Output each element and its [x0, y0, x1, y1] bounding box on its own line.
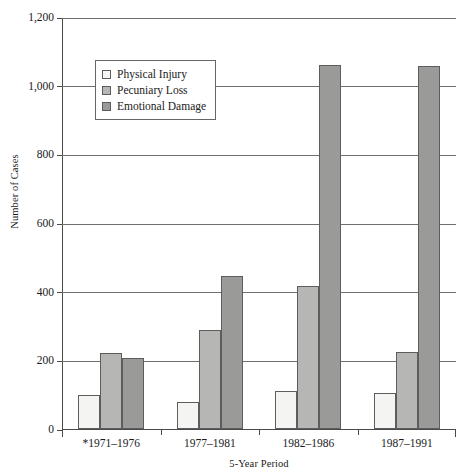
x-axis-tick-mark — [161, 429, 162, 435]
y-axis-tick-label: 0 — [8, 424, 54, 436]
bar-physical-injury-1 — [177, 402, 199, 429]
legend-item: Pecuniary Loss — [102, 82, 206, 98]
legend-swatch-icon — [102, 70, 111, 79]
x-axis-tick-labels: *1971–19761977–19811982–19861987–1991 — [62, 436, 456, 454]
y-axis-tick-mark — [57, 86, 62, 87]
y-axis-tick-mark — [57, 155, 62, 156]
y-axis-tick-label: 600 — [8, 218, 54, 230]
legend-item: Physical Injury — [102, 66, 206, 82]
x-axis-tick-mark — [259, 429, 260, 435]
legend-swatch-icon — [102, 86, 111, 95]
y-axis-tick-label: 800 — [8, 149, 54, 161]
y-axis-tick-mark — [57, 292, 62, 293]
y-axis-tick-label: 200 — [8, 355, 54, 367]
y-axis-tick-label: 400 — [8, 287, 54, 299]
y-axis-tick-mark — [57, 224, 62, 225]
gridline — [62, 18, 456, 19]
x-axis-tick-label: 1982–1986 — [259, 436, 358, 450]
bar-emotional-damage-2 — [319, 65, 341, 429]
bar-physical-injury-3 — [374, 393, 396, 429]
legend-label: Physical Injury — [117, 68, 187, 80]
gridline — [62, 292, 456, 293]
y-axis-tick-mark — [57, 361, 62, 362]
y-axis-tick-label: 1,200 — [8, 12, 54, 24]
x-axis-tick-label: *1971–1976 — [62, 436, 161, 450]
legend-label: Emotional Damage — [117, 100, 206, 112]
y-axis-tick-labels: 02004006008001,0001,200 — [0, 0, 54, 476]
bar-physical-injury-0 — [78, 395, 100, 429]
gridline — [62, 224, 456, 225]
legend-label: Pecuniary Loss — [117, 84, 188, 96]
bar-pecuniary-loss-0 — [100, 353, 122, 429]
chart-legend: Physical InjuryPecuniary LossEmotional D… — [95, 60, 216, 120]
bar-pecuniary-loss-1 — [199, 330, 221, 429]
bar-emotional-damage-1 — [221, 276, 243, 429]
x-axis-title: 5-Year Period — [62, 457, 456, 471]
legend-swatch-icon — [102, 102, 111, 111]
y-axis-tick-label: 1,000 — [8, 81, 54, 93]
bar-pecuniary-loss-2 — [297, 286, 319, 430]
x-axis-tick-label: 1987–1991 — [358, 436, 457, 450]
bar-pecuniary-loss-3 — [396, 352, 418, 429]
x-axis-tick-label: 1977–1981 — [161, 436, 260, 450]
x-axis-tick-mark — [358, 429, 359, 435]
y-axis-tick-mark — [57, 18, 62, 19]
gridline — [62, 155, 456, 156]
bar-chart: Number of Cases 02004006008001,0001,200 … — [0, 0, 464, 476]
bar-physical-injury-2 — [275, 391, 297, 429]
bar-emotional-damage-3 — [418, 66, 440, 429]
legend-item: Emotional Damage — [102, 98, 206, 114]
bar-emotional-damage-0 — [122, 358, 144, 429]
